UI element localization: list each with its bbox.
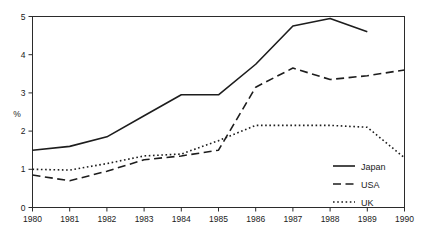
y-tick-label: 1 <box>21 164 26 174</box>
x-tick-label: 1990 <box>395 214 414 224</box>
x-tick-label: 1980 <box>23 214 42 224</box>
y-tick-label: 5 <box>21 12 26 22</box>
chart-background <box>0 0 426 245</box>
line-chart: 012345 % 1980198119821983198419851986198… <box>0 0 426 245</box>
y-axis-title: % <box>13 109 21 119</box>
x-tick-label: 1984 <box>172 214 191 224</box>
x-tick-label: 1988 <box>321 214 340 224</box>
x-tick-label: 1985 <box>209 214 228 224</box>
y-tick-label: 2 <box>21 126 26 136</box>
chart-canvas: 012345 % 1980198119821983198419851986198… <box>0 0 426 245</box>
x-tick-label: 1981 <box>60 214 79 224</box>
x-tick-label: 1983 <box>135 214 154 224</box>
y-tick-label: 0 <box>21 203 26 213</box>
legend-label-japan: Japan <box>361 162 386 172</box>
y-tick-label: 3 <box>21 88 26 98</box>
legend-label-usa: USA <box>361 180 380 190</box>
x-tick-label: 1989 <box>358 214 377 224</box>
legend-label-uk: UK <box>361 198 374 208</box>
y-tick-label: 4 <box>21 50 26 60</box>
x-tick-label: 1982 <box>97 214 116 224</box>
x-tick-label: 1987 <box>283 214 302 224</box>
x-tick-label: 1986 <box>246 214 265 224</box>
